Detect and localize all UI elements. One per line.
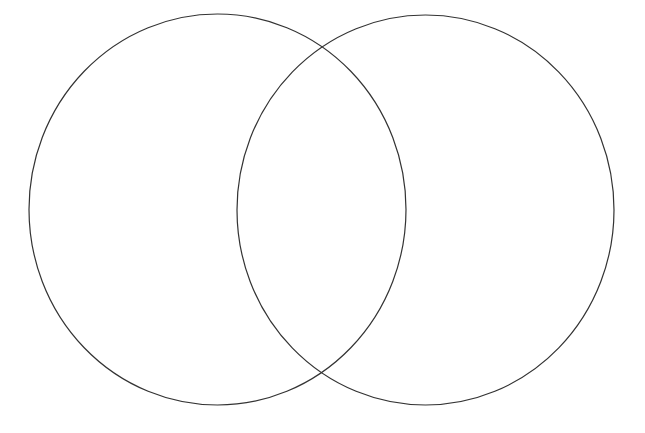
right-set-circle <box>237 15 614 405</box>
left-set-circle <box>29 14 406 405</box>
venn-diagram <box>0 0 645 433</box>
venn-diagram-canvas <box>0 0 645 433</box>
